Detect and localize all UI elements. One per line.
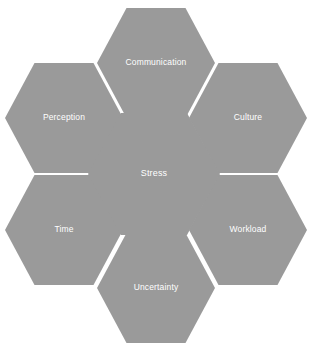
hexagon-label-workload: Workload (230, 225, 267, 234)
hexagon-label-stress: Stress (141, 169, 167, 179)
hexagon-label-communication: Communication (125, 58, 186, 67)
hexagon-diagram: CommunicationPerceptionCultureTimeWorklo… (0, 0, 311, 346)
hexagon-uncertainty[interactable]: Uncertainty (97, 233, 215, 343)
hexagon-label-time: Time (54, 225, 73, 234)
hexagon-label-culture: Culture (234, 113, 262, 122)
hexagon-label-perception: Perception (43, 113, 85, 122)
hexagon-communication[interactable]: Communication (97, 8, 215, 118)
hexagon-label-uncertainty: Uncertainty (134, 283, 179, 292)
